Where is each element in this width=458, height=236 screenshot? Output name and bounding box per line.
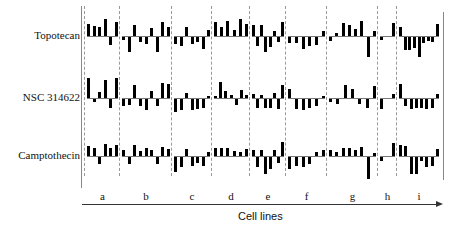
column-label-e: e <box>266 190 271 202</box>
bar <box>360 147 363 156</box>
bar <box>109 37 112 45</box>
bar <box>436 24 439 36</box>
bar <box>202 157 205 166</box>
bar <box>174 99 177 112</box>
bar <box>235 99 238 105</box>
bar <box>191 157 194 166</box>
bar <box>87 78 90 98</box>
bar <box>109 148 112 156</box>
bar <box>256 157 259 167</box>
column-separator <box>171 6 172 176</box>
bar <box>256 37 259 46</box>
bar <box>220 148 223 156</box>
bar <box>295 99 298 109</box>
bar <box>150 150 153 156</box>
bar <box>128 99 131 105</box>
bar <box>308 157 311 164</box>
bar <box>342 23 345 36</box>
bar <box>322 31 325 36</box>
bar <box>256 99 259 108</box>
bar <box>380 37 383 40</box>
bar <box>133 145 136 156</box>
bar <box>288 37 291 43</box>
bar <box>185 93 188 98</box>
bar <box>252 25 255 36</box>
column-separator <box>119 6 120 176</box>
bar <box>392 23 395 36</box>
bar <box>202 99 205 108</box>
bar <box>329 99 332 102</box>
bar <box>156 157 159 164</box>
bar <box>366 99 369 108</box>
bar <box>399 27 402 36</box>
column-label-i: i <box>417 190 420 202</box>
bar <box>335 152 338 156</box>
bar <box>329 150 332 156</box>
bar <box>351 89 354 98</box>
bar <box>413 37 416 48</box>
bar <box>167 27 170 36</box>
bar <box>308 37 311 46</box>
bar <box>308 99 311 108</box>
bar <box>139 99 142 106</box>
bar <box>288 157 291 169</box>
bar <box>260 95 263 98</box>
column-label-a: a <box>100 190 105 202</box>
bar <box>219 82 222 98</box>
bar <box>180 99 183 110</box>
bar <box>436 94 439 98</box>
bar <box>161 22 164 36</box>
bar <box>315 37 318 45</box>
bar <box>425 157 428 167</box>
bar <box>315 152 318 156</box>
bar <box>281 85 284 98</box>
bar <box>104 19 107 36</box>
row-label-nsc-314622: NSC 314622 <box>23 91 80 103</box>
bar <box>373 153 376 156</box>
bar <box>273 93 276 98</box>
bar <box>277 157 280 163</box>
bar <box>354 150 357 156</box>
baseline <box>87 156 118 157</box>
column-label-b: b <box>143 190 149 202</box>
bar <box>264 157 267 174</box>
bar <box>373 31 376 36</box>
bar <box>180 37 183 46</box>
bar <box>436 149 439 156</box>
bar <box>427 37 430 41</box>
right-border-line <box>443 12 444 180</box>
bar <box>358 99 361 104</box>
arrowhead-icon <box>436 201 443 207</box>
bar <box>295 37 298 43</box>
bar <box>273 150 276 156</box>
bar <box>288 89 291 98</box>
column-separator <box>396 6 397 176</box>
bar <box>245 24 248 36</box>
bar <box>399 145 402 156</box>
bar <box>380 99 383 109</box>
bar <box>150 28 153 36</box>
bar <box>431 37 434 42</box>
column-separator <box>285 6 286 176</box>
bar <box>115 78 118 98</box>
column-label-c: c <box>190 190 195 202</box>
bar <box>322 150 325 156</box>
bar <box>354 29 357 36</box>
bar <box>122 150 125 156</box>
bar <box>373 86 376 98</box>
bar <box>161 83 164 98</box>
bar <box>214 148 217 156</box>
bar <box>185 149 188 156</box>
bar <box>174 157 177 172</box>
bar <box>269 157 272 169</box>
bar <box>214 96 217 98</box>
bar <box>281 22 284 36</box>
bar <box>233 30 236 36</box>
bar <box>431 157 434 166</box>
bar <box>122 37 125 40</box>
bar <box>302 37 305 49</box>
bar <box>233 151 236 156</box>
bar <box>150 91 153 98</box>
bar <box>133 25 136 36</box>
bar <box>180 157 183 167</box>
